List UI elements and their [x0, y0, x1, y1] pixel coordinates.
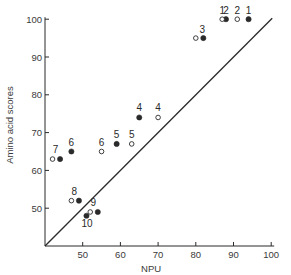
- filled-circle-marker: [137, 115, 142, 120]
- data-points: 1221344556678910: [50, 5, 252, 229]
- x-tick-label: 80: [191, 249, 202, 260]
- identity-line: [45, 18, 272, 246]
- point-label: 10: [81, 218, 93, 229]
- point-label: 5: [114, 129, 120, 140]
- x-tick-label: 70: [153, 249, 164, 260]
- x-tick-label: 50: [77, 249, 88, 260]
- filled-circle-marker: [246, 17, 251, 22]
- open-circle-marker: [235, 17, 240, 22]
- filled-circle-marker: [57, 156, 62, 161]
- x-tick-label: 60: [115, 249, 126, 260]
- filled-circle-marker: [95, 209, 100, 214]
- x-tick-label: 100: [263, 249, 279, 260]
- y-tick-label: 90: [31, 52, 42, 63]
- y-tick-label: 100: [26, 14, 42, 25]
- point-label: 3: [200, 24, 206, 35]
- point-label: 8: [72, 186, 78, 197]
- open-circle-marker: [99, 149, 104, 154]
- open-circle-marker: [194, 36, 199, 41]
- open-circle-marker: [220, 17, 225, 22]
- filled-circle-marker: [114, 141, 119, 146]
- x-tick-label: 90: [228, 249, 239, 260]
- point-label: 2: [234, 5, 240, 16]
- point-label: 7: [53, 144, 59, 155]
- y-tick-label: 60: [31, 165, 42, 176]
- open-circle-marker: [129, 142, 134, 147]
- scatter-chart: 50607080901005060708090100 1221344556678…: [0, 0, 291, 275]
- point-label: 5: [129, 129, 135, 140]
- open-circle-marker: [156, 115, 161, 120]
- point-label: 2: [223, 5, 229, 16]
- point-label: 6: [99, 137, 105, 148]
- identity-reference-line: [45, 18, 272, 246]
- filled-circle-marker: [76, 198, 81, 203]
- open-circle-marker: [69, 198, 74, 203]
- x-axis-label: NPU: [141, 263, 161, 274]
- y-tick-label: 70: [31, 127, 42, 138]
- point-label: 4: [136, 102, 142, 113]
- y-tick-label: 50: [31, 203, 42, 214]
- filled-circle-marker: [69, 149, 74, 154]
- axes: 50607080901005060708090100: [26, 14, 279, 260]
- point-label: 1: [246, 5, 252, 16]
- open-circle-marker: [50, 157, 55, 162]
- point-label: 9: [90, 197, 96, 208]
- y-tick-label: 80: [31, 89, 42, 100]
- filled-circle-marker: [201, 36, 206, 41]
- point-label: 6: [69, 137, 75, 148]
- point-label: 4: [155, 102, 161, 113]
- open-circle-marker: [88, 210, 93, 215]
- y-axis-label: Amino acid scores: [4, 86, 15, 164]
